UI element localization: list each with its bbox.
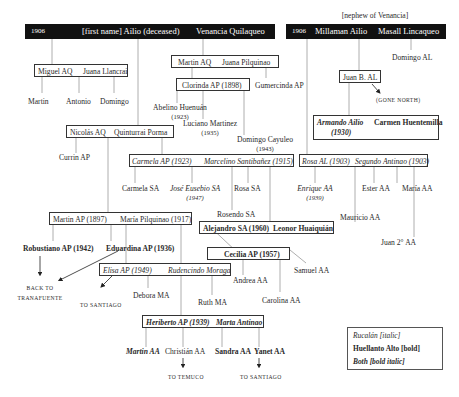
note-label: [nephew of Venancia]: [310, 11, 440, 21]
person-name: Domingo: [100, 97, 129, 107]
couple-box: Elisa AP (1949) Rudencindo Moraga: [99, 263, 231, 276]
person-name: Christián AA: [165, 347, 205, 357]
person-name: Martin AQ: [178, 56, 211, 69]
year-label: (1939): [290, 193, 340, 203]
person-name: Currin AP: [59, 153, 90, 163]
person-name: Venancia Quilaqueo: [196, 24, 265, 39]
person-box: Cecilia AP (1957): [207, 247, 290, 260]
person-name: Sandra AA: [215, 347, 251, 357]
person-name: Cecilia AP (1957): [224, 248, 280, 261]
person-name: Antonio: [66, 97, 91, 107]
person-box: Juan B. AL: [339, 70, 381, 83]
person-name: Gumercinda AP: [255, 81, 304, 91]
person-name: Eduardina AP (1936): [106, 244, 174, 254]
person-name: Juan B. AL: [343, 71, 377, 84]
legend-box: Rucalán [italic] Huellanto Alto [bold] B…: [347, 327, 443, 370]
person-name: Ruth MA: [198, 298, 227, 308]
destination-label: to santiago: [80, 300, 122, 310]
person-name: Juana Llancrai: [83, 65, 127, 78]
couple-box: Nicolás AQ Quinturrai Porma: [66, 125, 174, 138]
person-name: Rosa SA: [234, 184, 261, 194]
person-name: Rosa AL (1903): [302, 155, 350, 168]
person-name: [first name] Ailio (deceased): [82, 24, 179, 39]
person-name: Rudencindo Moraga: [168, 264, 231, 277]
person-name: María Pilquinao (1917): [120, 213, 191, 226]
person-name: María AA: [402, 184, 433, 194]
person-name: Andrea AA: [233, 276, 268, 286]
person-name: Marcelino Santibañez (1915): [204, 155, 293, 168]
person-name: Martin AA: [126, 347, 160, 357]
person-name: Quinturrai Porma: [114, 126, 167, 139]
person-box: Clorinda AP (1898): [176, 78, 250, 91]
person-name: Yanet AA: [254, 347, 285, 357]
person-name: Carmela SA: [122, 184, 159, 194]
person-name: Segundo Antinao (1903): [355, 155, 429, 168]
person-name: Nicolás AQ: [70, 126, 106, 139]
couple-box: Miguel AQ Juana Llancrai: [34, 64, 128, 77]
person-name: Alejandro SA (1960): [203, 222, 269, 235]
person-name: Clorinda AP (1898): [182, 79, 242, 92]
legend-bold-italic: Both [bold italic]: [353, 357, 405, 366]
destination-label: tranafuente: [15, 293, 65, 303]
person-name: Martin: [28, 97, 49, 107]
couple-box: Heriberto AP (1939) Marta Antinao: [142, 315, 264, 328]
person-name: Heriberto AP (1939): [146, 316, 210, 329]
person-name: Masall Lincaqueo: [378, 24, 439, 39]
couple-box: Armando Ailio (1930) Carmen Huentemilla: [313, 115, 439, 140]
couple-box: Alejandro SA (1960) Leonor Huaiquián: [199, 221, 334, 234]
person-name: Debora MA: [133, 291, 169, 301]
person-name: Juana Pilquinao: [222, 56, 270, 69]
destination-label: to temuco: [168, 372, 204, 382]
legend-italic: Rucalán [italic]: [353, 331, 400, 340]
founder-couple-bar-right: 1906 Millaman Ailio Masall Lincaqueo: [286, 24, 446, 39]
couple-box: Martin AQ Juana Pilquinao: [171, 55, 279, 68]
year-label: 1906: [31, 24, 45, 39]
person-name: Samuel AA: [294, 266, 329, 276]
person-name: Millaman Ailio: [315, 24, 367, 39]
year-label: 1906: [292, 24, 306, 39]
couple-box: Rosa AL (1903) Segundo Antinao (1903): [299, 154, 428, 167]
couple-box: Carmela AP (1923) Marcelino Santibañez (…: [129, 154, 294, 167]
year-label: (1930): [331, 126, 351, 139]
person-name: Carmen Huentemilla: [374, 116, 443, 129]
person-name: Juan 2° AA: [381, 238, 416, 248]
person-name: Mauricio AA: [340, 213, 380, 223]
founder-couple-bar-left: 1906 [first name] Ailio (deceased) Venan…: [25, 24, 275, 39]
destination-label: back to: [20, 283, 60, 293]
person-name: Carmela AP (1923): [132, 155, 192, 168]
person-name: Domingo AL: [392, 53, 432, 63]
year-label: (1947): [165, 193, 225, 203]
person-name: Elisa AP (1949): [103, 264, 152, 277]
destination-label: (gone north): [376, 95, 420, 105]
person-name: Robustiano AP (1942): [23, 244, 93, 254]
person-name: Ester AA: [362, 184, 390, 194]
person-name: Martin AP (1897): [53, 213, 107, 226]
person-name: Leonor Huaiquián: [273, 222, 333, 235]
person-name: Rosendo SA: [217, 210, 255, 220]
year-label: (1943): [230, 144, 300, 154]
person-name: Carolina AA: [262, 296, 301, 306]
person-name: Miguel AQ: [38, 65, 72, 78]
legend-bold: Huellanto Alto [bold]: [353, 344, 420, 353]
person-name: Marta Antinao: [216, 316, 262, 329]
destination-label: to santiago: [240, 372, 282, 382]
couple-box: Martin AP (1897) María Pilquinao (1917): [49, 212, 192, 225]
